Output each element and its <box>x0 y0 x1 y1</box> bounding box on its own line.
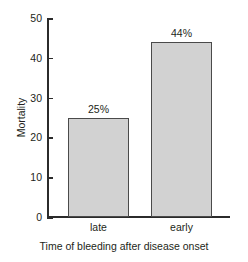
x-axis-title: Time of bleeding after disease onset <box>0 241 248 252</box>
y-axis-tick-label: 10 <box>30 172 42 183</box>
x-axis-category-label: early <box>170 222 193 233</box>
bar[interactable]: 44% <box>151 42 212 217</box>
bar-value-label: 44% <box>171 28 192 39</box>
bar[interactable]: 25% <box>68 118 129 218</box>
y-axis-tick-mark <box>47 217 53 219</box>
bar-value-label: 25% <box>88 104 109 115</box>
x-axis-category-label: late <box>90 222 107 233</box>
y-axis-title: Mortality <box>14 18 28 217</box>
y-axis-tick-label: 30 <box>30 92 42 103</box>
bar-chart-figure: Mortality 01020304050 25%44% lateearly T… <box>0 0 248 262</box>
y-axis-tick-label: 40 <box>30 53 42 64</box>
plot-area: 25%44% <box>47 18 230 217</box>
y-axis-tick-label: 0 <box>36 212 42 223</box>
y-axis-tick-label: 20 <box>30 132 42 143</box>
y-axis-tick-label: 50 <box>30 13 42 24</box>
